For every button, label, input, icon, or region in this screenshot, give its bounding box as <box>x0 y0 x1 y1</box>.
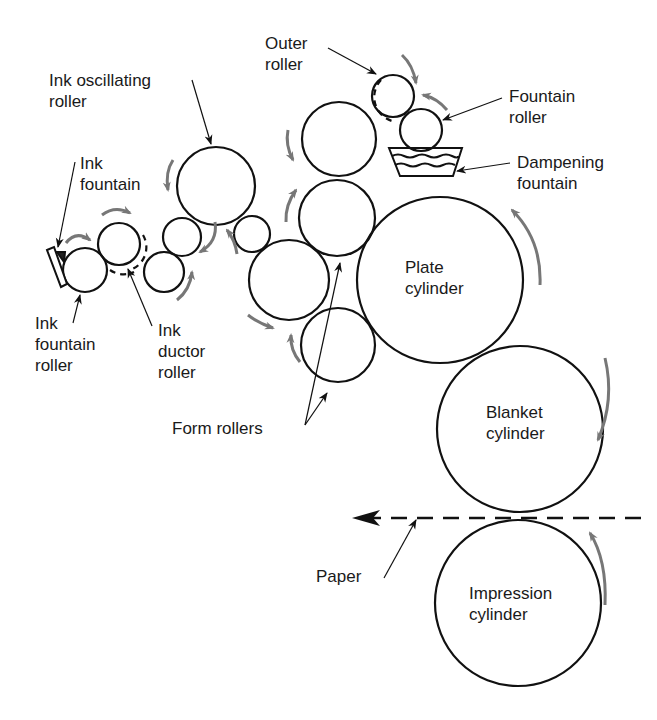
dampening-fountain-tray <box>389 148 462 176</box>
form-roller-bottom <box>301 308 375 382</box>
label-ink-ductor-roller: Ink ductor roller <box>158 320 205 383</box>
form-roller-middle <box>299 180 375 256</box>
label-ink-fountain: Ink fountain <box>80 153 141 195</box>
distributor-roller-1 <box>144 252 184 292</box>
label-blanket-cylinder: Blanket cylinder <box>486 402 545 444</box>
label-outer-roller: Outer roller <box>265 33 308 75</box>
distributor-roller-3 <box>234 216 270 252</box>
distributor-roller-2 <box>163 218 201 256</box>
large-roller-left <box>249 240 329 320</box>
label-fountain-roller: Fountain roller <box>509 86 575 128</box>
label-impression-cylinder: Impression cylinder <box>469 583 552 625</box>
label-ink-fountain-roller: Ink fountain roller <box>35 313 96 376</box>
ink-oscillating-roller <box>177 147 255 225</box>
label-plate-cylinder: Plate cylinder <box>405 257 464 299</box>
ink-ductor-roller <box>98 223 140 265</box>
label-form-rollers: Form rollers <box>172 418 263 439</box>
label-paper: Paper <box>316 566 361 587</box>
fountain-roller <box>400 109 442 151</box>
label-dampening-fountain: Dampening fountain <box>517 152 604 194</box>
column-roller-top <box>302 102 376 176</box>
label-ink-oscillating-roller: Ink oscillating roller <box>49 70 151 112</box>
